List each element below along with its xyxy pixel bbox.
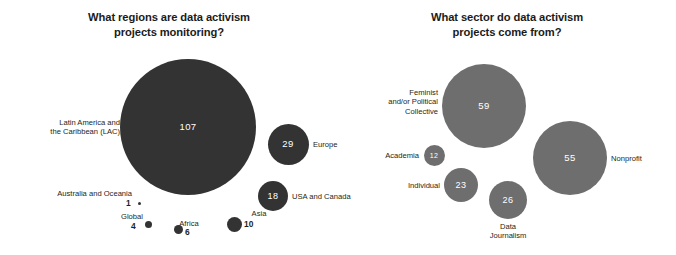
bubble-value-europe: 29 bbox=[282, 139, 293, 149]
bubble-chart-figure: What regions are data activism projects … bbox=[0, 0, 676, 255]
bubble-europe[interactable]: 29 bbox=[268, 124, 309, 165]
bubble-label-australia-oceania: Australia and Oceania bbox=[32, 189, 132, 198]
chart-title-sectors: What sector do data activism projects co… bbox=[338, 10, 676, 39]
bubble-feminist-political-collective[interactable]: 59 bbox=[442, 64, 526, 148]
chart-title-regions-line-1: What regions are data activism bbox=[0, 10, 338, 25]
chart-title-regions: What regions are data activism projects … bbox=[0, 10, 338, 39]
bubble-value-academia: 12 bbox=[430, 152, 439, 159]
bubble-usa-canada[interactable]: 18 bbox=[258, 181, 288, 211]
bubble-label-asia: Asia bbox=[244, 209, 274, 218]
chart-title-sectors-line-2: projects come from? bbox=[338, 25, 676, 40]
bubble-value-feminist-political-collective: 59 bbox=[478, 101, 489, 111]
bubble-asia[interactable] bbox=[227, 217, 242, 232]
chart-panel-regions: What regions are data activism projects … bbox=[0, 0, 338, 255]
chart-title-regions-line-2: projects monitoring? bbox=[0, 25, 338, 40]
bubble-label-individual: Individual bbox=[384, 181, 440, 190]
bubble-value-latin-america-caribbean: 107 bbox=[179, 122, 196, 132]
chart-panel-sectors: What sector do data activism projects co… bbox=[338, 0, 676, 255]
bubble-nonprofit[interactable]: 55 bbox=[533, 121, 607, 195]
bubble-global[interactable] bbox=[145, 221, 152, 228]
chart-title-sectors-line-1: What sector do data activism bbox=[338, 10, 676, 25]
bubble-value-individual: 23 bbox=[456, 181, 467, 190]
bubble-value-nonprofit: 55 bbox=[564, 153, 575, 163]
bubble-label-feminist-political-collective: Feminist and/or Political Collective bbox=[373, 88, 438, 116]
bubble-value-data-journalism: 26 bbox=[503, 196, 514, 205]
bubble-value-asia: 10 bbox=[244, 220, 253, 229]
bubble-label-nonprofit: Nonprofit bbox=[611, 154, 671, 163]
bubble-latin-america-caribbean[interactable]: 107 bbox=[120, 59, 256, 195]
bubble-label-academia: Academia bbox=[369, 151, 419, 160]
bubble-label-global: Global bbox=[110, 212, 154, 221]
bubble-value-global: 4 bbox=[131, 222, 136, 231]
bubble-value-usa-canada: 18 bbox=[268, 192, 279, 201]
bubble-australia-oceania[interactable] bbox=[138, 202, 141, 205]
bubble-individual[interactable]: 23 bbox=[444, 168, 478, 202]
bubble-value-australia-oceania: 1 bbox=[126, 199, 131, 208]
bubble-value-africa: 6 bbox=[185, 228, 190, 237]
bubble-label-latin-america-caribbean: Latin America and the Caribbean (LAC) bbox=[24, 118, 120, 137]
bubble-label-data-journalism: Data Journalism bbox=[473, 222, 543, 241]
bubble-data-journalism[interactable]: 26 bbox=[489, 181, 527, 219]
bubble-academia[interactable]: 12 bbox=[424, 145, 445, 166]
